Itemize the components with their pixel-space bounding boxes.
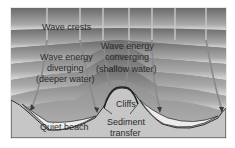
label-converging-line1: Wave energy bbox=[101, 41, 154, 51]
label-diverging-line2: diverging bbox=[47, 63, 84, 73]
label-diverging-line1: Wave energy bbox=[40, 52, 93, 62]
label-quiet-beach: Quiet beach bbox=[40, 122, 89, 132]
label-converging-line3: (shallow water) bbox=[96, 64, 157, 74]
label-diverging-line3: (deeper water) bbox=[36, 74, 95, 84]
label-cliffs: Cliffs bbox=[116, 99, 136, 109]
wave-refraction-diagram: Wave crests Wave energy diverging (deepe… bbox=[0, 0, 235, 148]
label-sediment-line1: Sediment bbox=[107, 117, 146, 127]
label-converging-line2: converging bbox=[105, 52, 149, 62]
label-sediment-line2: transfer bbox=[110, 128, 141, 138]
label-wave-crests: Wave crests bbox=[42, 22, 92, 32]
